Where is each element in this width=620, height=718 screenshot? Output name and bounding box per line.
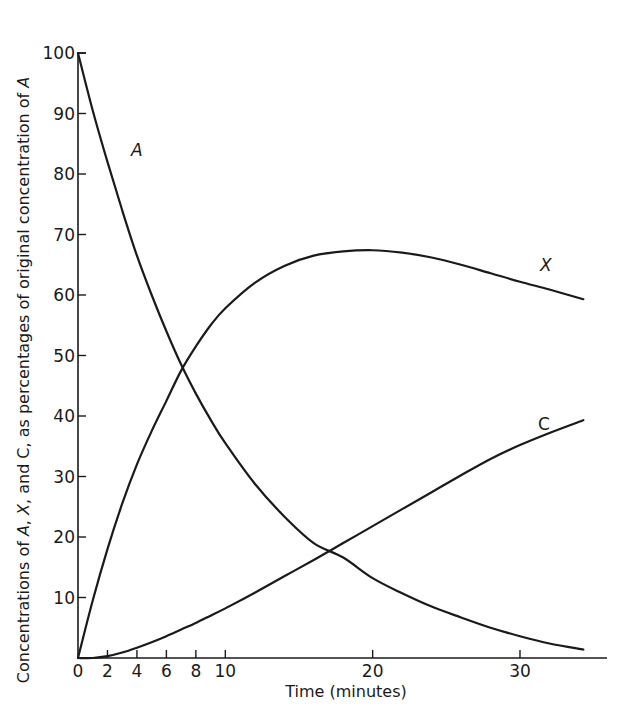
y-tick-label: 30 [53, 467, 75, 487]
y-tick-label: 90 [53, 104, 75, 124]
x-tick-label: 10 [215, 661, 237, 681]
x-tick-label: 2 [102, 661, 113, 681]
curve-X [78, 250, 583, 658]
reaction-kinetics-chart: 10203040506070809010002468102030 A X C T… [0, 0, 620, 718]
y-tick-label: 60 [53, 285, 75, 305]
curve-A [78, 53, 583, 650]
x-tick-label: 20 [362, 661, 384, 681]
curves [78, 53, 583, 658]
y-axis-title: Concentrations of A, X, and C, as percen… [14, 77, 33, 683]
x-tick-label: 8 [190, 661, 201, 681]
y-tick-label: 40 [53, 406, 75, 426]
x-axis-title: Time (minutes) [284, 682, 407, 701]
y-tick-label: 10 [53, 588, 75, 608]
series-label-A: A [130, 140, 143, 160]
series-label-C: C [538, 414, 550, 434]
x-tick-label: 4 [132, 661, 143, 681]
axis-ticks: 10203040506070809010002468102030 [43, 43, 531, 681]
curve-C [78, 420, 583, 658]
y-tick-label: 20 [53, 527, 75, 547]
series-label-X: X [539, 255, 552, 275]
y-tick-label: 100 [43, 43, 75, 63]
y-tick-label: 80 [53, 164, 75, 184]
y-tick-label: 50 [53, 346, 75, 366]
x-tick-label: 6 [161, 661, 172, 681]
axes [78, 53, 607, 658]
x-tick-label: 0 [73, 661, 84, 681]
y-tick-label: 70 [53, 225, 75, 245]
x-tick-label: 30 [509, 661, 531, 681]
